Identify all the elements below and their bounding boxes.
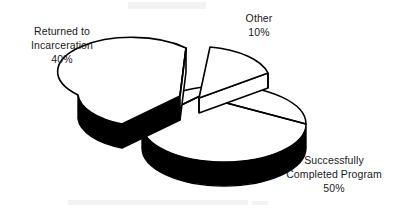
- slice-label-successfully-completed-program: Successfully Completed Program 50%: [272, 153, 396, 195]
- slice-label-returned-to-incarceration: Returned to Incarceration 40%: [6, 24, 118, 66]
- slice-label-line-2: Completed Program: [272, 167, 396, 181]
- pie-chart-figure: Returned to Incarceration 40% Other 10% …: [0, 0, 397, 210]
- slice-label-line-1: Successfully: [272, 153, 396, 167]
- slice-label-value: 50%: [272, 181, 396, 195]
- slice-label-other: Other 10%: [214, 11, 304, 39]
- slice-label-value: 10%: [214, 25, 304, 39]
- slice-label-line-2: Incarceration: [6, 38, 118, 52]
- slice-label-line-1: Other: [214, 11, 304, 25]
- slice-label-line-1: Returned to: [6, 24, 118, 38]
- slice-label-value: 40%: [6, 52, 118, 66]
